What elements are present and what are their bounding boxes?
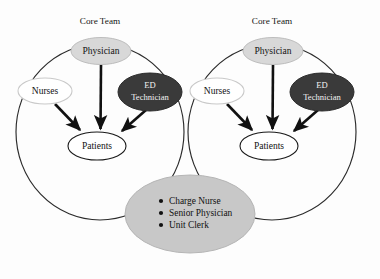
list-item: Charge Nurse <box>159 196 221 206</box>
right-node-physician[interactable]: Physician <box>243 38 303 65</box>
left-nurses-label: Nurses <box>32 86 59 96</box>
left-arrow-edtech-to-patients <box>122 110 146 131</box>
left-cluster-title: Core Team <box>80 16 120 26</box>
left-node-patients[interactable]: Patients <box>68 132 126 160</box>
right-arrow-edtech-to-patients <box>294 110 318 131</box>
diagram-canvas: Core Team Physician Nurses ED Technician <box>0 0 380 279</box>
right-patients-label: Patients <box>254 141 284 151</box>
bullet-point-icon <box>159 211 163 215</box>
list-item: Senior Physician <box>159 208 233 218</box>
right-nurses-label: Nurses <box>204 86 231 96</box>
right-node-nurses[interactable]: Nurses <box>190 78 244 104</box>
support-bullet-label-0: Charge Nurse <box>169 196 221 206</box>
support-group-node[interactable]: Charge Nurse Senior Physician Unit Clerk <box>125 175 255 253</box>
bullet-point-icon <box>159 223 163 227</box>
right-arrow-nurses-to-patients <box>227 104 252 130</box>
bullet-point-icon <box>159 199 163 203</box>
left-node-nurses[interactable]: Nurses <box>18 78 72 104</box>
left-node-ed-technician[interactable]: ED Technician <box>118 73 182 111</box>
left-arrow-nurses-to-patients <box>55 104 80 130</box>
support-bullet-label-2: Unit Clerk <box>169 220 209 230</box>
right-node-patients[interactable]: Patients <box>240 132 298 160</box>
right-node-ed-technician[interactable]: ED Technician <box>290 73 354 111</box>
left-node-physician[interactable]: Physician <box>71 38 131 65</box>
diagram-root: Core Team Physician Nurses ED Technician <box>0 0 380 279</box>
right-physician-label: Physician <box>255 46 292 56</box>
support-bullet-label-1: Senior Physician <box>169 208 233 218</box>
right-arrow-physician-to-patients <box>273 65 274 129</box>
left-patients-label: Patients <box>82 141 112 151</box>
right-ed-technician-label-line2: Technician <box>303 92 341 102</box>
right-cluster-title: Core Team <box>252 16 292 26</box>
left-ed-technician-label-line2: Technician <box>131 92 169 102</box>
left-ed-technician-label-line1: ED <box>144 80 155 90</box>
left-physician-label: Physician <box>83 46 120 56</box>
right-ed-technician-label-line1: ED <box>316 80 327 90</box>
left-arrow-physician-to-patients <box>101 65 102 129</box>
